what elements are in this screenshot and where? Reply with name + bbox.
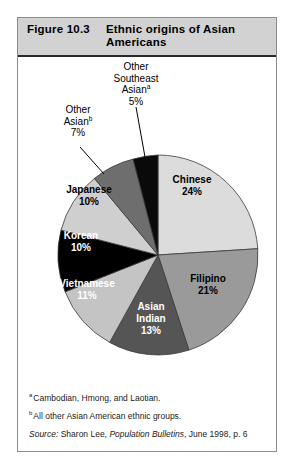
source-publication: Population Bulletins	[109, 429, 184, 439]
source-rest: , June 1998, p. 6	[184, 429, 247, 439]
callout-oa-marker: b	[89, 114, 93, 121]
slice-label-korean-name: Korean	[64, 230, 98, 241]
source-label: Source:	[29, 429, 58, 439]
callout-oa-line2: Asian	[64, 116, 89, 127]
slice-label-chinese-percent: 24%	[182, 186, 202, 197]
slice-label-asian-indian: Asian Indian 13%	[121, 301, 181, 337]
leader-line-other-southeast-asian	[136, 107, 145, 157]
slice-label-vietnamese-percent: 11%	[77, 290, 96, 301]
callout-ose-marker: a	[147, 83, 151, 90]
callout-ose-line2: Southeast	[113, 73, 158, 84]
slice-label-asian-indian-name2: Indian	[136, 313, 165, 324]
figure-header: Figure 10.3 Ethnic origins of Asian Amer…	[18, 18, 276, 57]
footnote-b-marker: b	[29, 410, 32, 416]
figure-title: Ethnic origins of Asian Americans	[106, 23, 256, 49]
slice-label-japanese-percent: 10%	[79, 196, 99, 207]
slice-label-asian-indian-percent: 13%	[141, 325, 161, 336]
source-author: Sharon Lee,	[61, 429, 107, 439]
slice-label-korean-percent: 10%	[71, 242, 91, 253]
source-line: Source: Sharon Lee, Population Bulletins…	[29, 429, 266, 439]
slice-label-korean: Korean 10%	[52, 230, 110, 254]
slice-label-vietnamese-name: Vietnamese	[59, 278, 114, 289]
slice-label-filipino: Filipino 21%	[177, 273, 239, 297]
callout-ose-line1: Other	[123, 61, 148, 72]
callout-oa-line1: Other	[65, 104, 90, 115]
leader-line-other-asian	[80, 147, 104, 174]
callout-oa-percent: 7%	[71, 127, 85, 138]
slice-label-filipino-percent: 21%	[198, 285, 218, 296]
callout-other-asian: Other Asianb 7%	[48, 104, 108, 139]
footnote-b-text: All other Asian American ethnic groups.	[33, 411, 181, 421]
footnotes-section: aCambodian, Hmong, and Laotian. bAll oth…	[18, 384, 276, 439]
slice-label-filipino-name: Filipino	[190, 273, 226, 284]
callout-ose-line3: Asian	[122, 84, 147, 95]
footnote-a: aCambodian, Hmong, and Laotian.	[29, 393, 266, 403]
pie-slice-chinese	[158, 155, 258, 255]
footnote-a-text: Cambodian, Hmong, and Laotian.	[33, 393, 160, 403]
slice-label-chinese: Chinese 24%	[159, 174, 225, 198]
figure-number: Figure 10.3	[27, 23, 90, 35]
pie-chart: Other Southeast Asiana 5% Other Asianb 7…	[18, 57, 276, 384]
slice-label-japanese: Japanese 10%	[54, 184, 124, 208]
footnote-b: bAll other Asian American ethnic groups.	[29, 411, 266, 421]
callout-other-southeast-asian: Other Southeast Asiana 5%	[97, 61, 175, 107]
slice-label-chinese-name: Chinese	[173, 174, 212, 185]
slice-label-japanese-name: Japanese	[66, 184, 112, 195]
callout-ose-percent: 5%	[129, 96, 143, 107]
footnote-a-marker: a	[29, 392, 32, 398]
figure-box: Figure 10.3 Ethnic origins of Asian Amer…	[17, 17, 277, 452]
slice-label-vietnamese: Vietnamese 11%	[49, 278, 125, 302]
slice-label-asian-indian-name1: Asian	[137, 301, 164, 312]
